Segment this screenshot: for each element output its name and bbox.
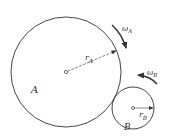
omega-a-label: ωA xyxy=(122,24,132,34)
wheel-b-label: B xyxy=(123,122,131,132)
wheel-a-label: A xyxy=(30,84,38,95)
radius-a-label: rA xyxy=(85,53,94,64)
wheel-b: rB B xyxy=(112,87,154,132)
omega-a: ωA xyxy=(112,24,132,48)
wheel-b-center xyxy=(132,107,135,110)
omega-b: ωB xyxy=(138,68,157,84)
wheel-a: rA A xyxy=(11,17,121,127)
wheels-diagram: rA A rB B ωA ωB xyxy=(0,0,169,139)
wheel-a-center xyxy=(64,70,67,73)
radius-b-label: rB xyxy=(139,110,148,121)
omega-b-label: ωB xyxy=(147,68,157,78)
